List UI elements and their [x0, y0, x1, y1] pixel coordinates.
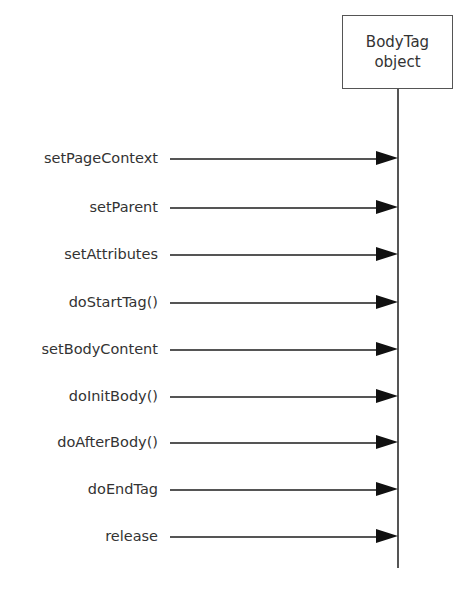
arrow-line [170, 207, 382, 209]
object-name: BodyTag [366, 32, 429, 52]
message-label: release [105, 526, 158, 546]
bodytag-object-box: BodyTag object [342, 15, 453, 89]
message-set-body-content: setBodyContent [0, 339, 398, 359]
message-set-attributes: setAttributes [0, 244, 398, 264]
message-do-after-body: doAfterBody() [0, 432, 398, 452]
message-set-parent: setParent [0, 197, 398, 217]
message-do-start-tag: doStartTag() [0, 292, 398, 312]
arrowhead-icon [376, 200, 398, 214]
message-label: doEndTag [88, 479, 158, 499]
message-label: doInitBody() [69, 386, 158, 406]
arrow-line [170, 302, 382, 304]
message-label: setParent [89, 197, 158, 217]
arrowhead-icon [376, 151, 398, 165]
arrowhead-icon [376, 295, 398, 309]
arrowhead-icon [376, 435, 398, 449]
arrow-line [170, 489, 382, 491]
arrow-line [170, 158, 382, 160]
message-label: setBodyContent [42, 339, 158, 359]
arrowhead-icon [376, 482, 398, 496]
object-type: object [374, 52, 420, 72]
message-do-init-body: doInitBody() [0, 386, 398, 406]
arrowhead-icon [376, 529, 398, 543]
message-label: setAttributes [64, 244, 158, 264]
arrow-line [170, 254, 382, 256]
arrowhead-icon [376, 247, 398, 261]
arrow-line [170, 536, 382, 538]
message-set-page-context: setPageContext [0, 148, 398, 168]
message-label: doStartTag() [69, 292, 158, 312]
message-label: setPageContext [44, 148, 158, 168]
arrowhead-icon [376, 389, 398, 403]
message-do-end-tag: doEndTag [0, 479, 398, 499]
message-release: release [0, 526, 398, 546]
arrow-line [170, 349, 382, 351]
arrow-line [170, 396, 382, 398]
message-label: doAfterBody() [57, 432, 158, 452]
arrowhead-icon [376, 342, 398, 356]
arrow-line [170, 442, 382, 444]
